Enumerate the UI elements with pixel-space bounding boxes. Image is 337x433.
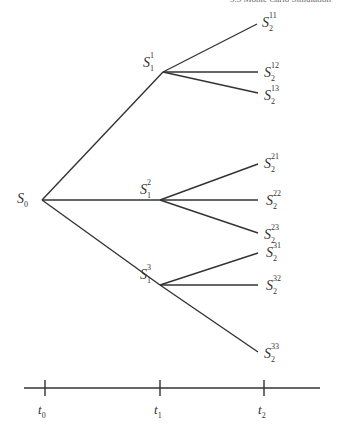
edge-3-31 — [160, 253, 258, 285]
node-s2-31: S312 — [266, 246, 273, 260]
edge-root-1 — [42, 72, 163, 200]
edge-2-23 — [160, 200, 258, 233]
edge-2-21 — [160, 164, 258, 200]
node-s2-11: S112 — [262, 16, 269, 30]
node-s2-32: S322 — [266, 279, 273, 293]
edge-1-13 — [163, 72, 258, 93]
node-s2-21: S212 — [264, 157, 271, 171]
node-s2-12: S122 — [264, 66, 271, 80]
node-s2-13: S132 — [264, 89, 271, 103]
node-s2-23: S232 — [264, 228, 271, 242]
edge-3-33 — [160, 285, 258, 352]
node-s2-22: S222 — [266, 194, 273, 208]
node-s1-1: S11 — [143, 56, 150, 70]
node-s1-2: S21 — [140, 183, 147, 197]
tree-diagram — [0, 0, 337, 433]
time-label-t1: t1 — [154, 402, 162, 420]
node-s2-33: S332 — [264, 347, 271, 361]
time-label-t2: t2 — [258, 402, 266, 420]
node-s1-3: S31 — [140, 268, 147, 282]
node-s0: S0 — [17, 192, 28, 209]
edge-1-11 — [163, 24, 257, 72]
time-label-t0: t0 — [38, 402, 46, 420]
